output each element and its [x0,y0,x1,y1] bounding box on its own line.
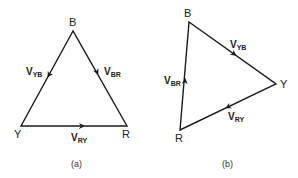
vertex-y-a: Y [14,128,22,140]
vertex-y-b: Y [280,78,288,90]
label-vbr-a: VBR [104,66,121,78]
label-vry-a: VRY [71,132,87,144]
vertex-r-a: R [122,128,130,140]
phasor-diagram-canvas: B Y R VYB VBR VRY (a) B Y R VYB VBR VRY … [0,0,298,178]
vertex-b-b: B [184,7,191,19]
caption-a: (a) [71,159,82,169]
diagram-b: B Y R VYB VBR VRY (b) [164,7,288,169]
triangle-a [21,31,127,126]
vertex-r-b: R [175,132,183,144]
label-vry-b: VRY [228,111,244,123]
label-vyb-b: VYB [230,39,246,51]
caption-b: (b) [222,159,233,169]
diagram-a: B Y R VYB VBR VRY (a) [14,16,130,169]
vertex-b-a: B [69,16,76,28]
label-vbr-b: VBR [164,75,181,87]
label-vyb-a: VYB [26,66,42,78]
